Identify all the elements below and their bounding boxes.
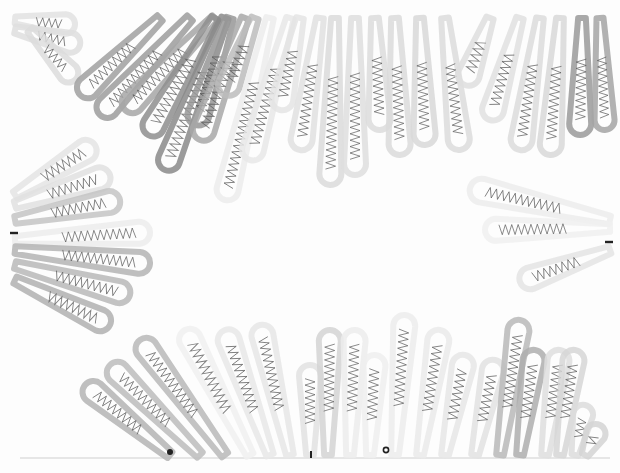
- zigzag-line: [575, 59, 586, 120]
- petal-loop: [590, 18, 615, 131]
- petal-loop: [569, 18, 593, 135]
- ring-marker: [383, 447, 388, 452]
- zigzag-line: [305, 379, 315, 424]
- dot-marker: [167, 449, 173, 455]
- zigzag-line: [324, 344, 335, 411]
- dash-marker: [605, 241, 613, 243]
- tick-marker: [310, 451, 312, 458]
- loop-drawing: [0, 0, 620, 473]
- petal-loop: [359, 354, 386, 455]
- zigzag-line: [117, 372, 172, 427]
- petal-loop: [384, 18, 411, 156]
- petal-loop: [317, 330, 341, 455]
- petal-loop: [409, 18, 436, 146]
- zigzag-line: [350, 73, 360, 159]
- petal-loop: [384, 314, 416, 456]
- artwork-canvas: [0, 0, 620, 473]
- petal-loop: [516, 240, 613, 293]
- petal-loop: [485, 217, 610, 241]
- petal-loop: [344, 18, 366, 175]
- dash-marker: [10, 232, 18, 234]
- petal-loop: [489, 318, 531, 456]
